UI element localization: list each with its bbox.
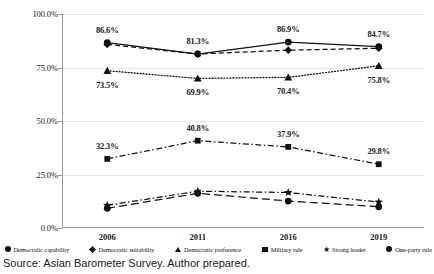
- series-point-marker: [376, 161, 382, 167]
- data-point-label: 73.5%: [96, 80, 118, 90]
- series-point-marker: [284, 188, 292, 196]
- series-point-marker: [104, 156, 110, 162]
- series-line: [107, 141, 379, 165]
- data-point-label: 81.3%: [187, 36, 209, 46]
- data-point-label: 29.8%: [368, 146, 390, 156]
- series-line: [107, 191, 379, 205]
- x-axis-tick-label: 2011: [189, 232, 206, 242]
- x-axis-tick-label: 2019: [370, 232, 387, 242]
- y-axis-tick: [58, 228, 62, 229]
- triangle-marker: [174, 246, 181, 253]
- data-point-label: 70.4%: [277, 86, 299, 96]
- legend-item[interactable]: One-party rule: [386, 246, 432, 253]
- series-line: [107, 193, 379, 208]
- legend-label: Democratic preference: [184, 246, 241, 253]
- data-point-label: 75.8%: [368, 75, 390, 85]
- y-axis-tick-label: 0.0%: [41, 223, 58, 233]
- legend-item[interactable]: Military rule: [261, 246, 302, 253]
- chart-container: 0.0%25.0%50.0%75.0%100.0% 86.6%81.3%86.9…: [0, 0, 434, 274]
- legend-label: Democratic capability: [14, 246, 70, 253]
- series-point-marker: [375, 62, 383, 69]
- legend-item[interactable]: Democratic preference: [174, 246, 241, 253]
- square-marker: [261, 246, 268, 253]
- y-axis-tick-label: 75.0%: [37, 63, 58, 73]
- data-point-label: 32.3%: [96, 141, 118, 151]
- series-point-marker: [195, 138, 201, 144]
- series-point-marker: [375, 203, 382, 210]
- legend-label: One-party rule: [395, 246, 432, 253]
- legend-label: Democratic suitability: [99, 246, 155, 253]
- legend-label: Strong leader: [332, 246, 366, 253]
- series-lines: [62, 14, 424, 228]
- data-point-label: 40.8%: [187, 123, 209, 133]
- legend-item[interactable]: ★Strong leader: [323, 246, 366, 253]
- data-point-label: 86.6%: [96, 25, 118, 35]
- star-marker: ★: [323, 246, 330, 253]
- series-point-marker: [285, 144, 291, 150]
- legend-item[interactable]: Democratic suitability: [89, 246, 154, 253]
- plot-area: [62, 14, 424, 228]
- series-line: [107, 44, 379, 54]
- data-point-label: 84.7%: [368, 29, 390, 39]
- circle-marker: [4, 246, 11, 253]
- circle-marker: [386, 246, 393, 253]
- y-axis-labels: 0.0%25.0%50.0%75.0%100.0%: [0, 14, 58, 228]
- series-point-marker: [104, 205, 111, 212]
- series-line: [107, 66, 379, 79]
- series-point-marker: [284, 46, 292, 54]
- series-point-marker: [285, 39, 292, 46]
- y-axis-tick-label: 100.0%: [32, 9, 58, 19]
- legend-label: Military rule: [271, 246, 303, 253]
- y-axis-tick-label: 25.0%: [37, 170, 58, 180]
- series-point-marker: [194, 190, 201, 197]
- data-point-label: 69.9%: [187, 87, 209, 97]
- series-point-marker: [194, 50, 202, 58]
- source-note: Source: Asian Barometer Survey. Author p…: [3, 257, 250, 269]
- data-point-label: 37.9%: [277, 129, 299, 139]
- data-point-label: 86.9%: [277, 24, 299, 34]
- series-point-marker: [285, 198, 292, 205]
- x-axis-tick-label: 2006: [99, 232, 116, 242]
- diamond-marker: [89, 246, 96, 253]
- series-point-marker: [103, 67, 111, 74]
- y-axis-tick-label: 50.0%: [37, 116, 58, 126]
- chart-legend: Democratic capabilityDemocratic suitabil…: [4, 243, 432, 256]
- legend-item[interactable]: Democratic capability: [4, 246, 69, 253]
- x-axis-tick-label: 2016: [280, 232, 297, 242]
